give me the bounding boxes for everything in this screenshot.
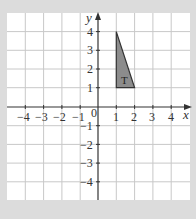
x-tick-label: −4 [17,110,30,124]
y-tick-label: 3 [87,43,93,57]
y-tick-label: −4 [80,175,93,189]
triangle-label: T [121,74,128,86]
x-tick-label: −2 [53,110,66,124]
y-axis-label: y [84,10,92,25]
x-axis-label: x [182,107,189,122]
coordinate-grid: T x y 0 −4 −3 −2 −1 1 2 3 4 4 3 2 1 −1 [0,0,196,219]
y-tick-label: −1 [80,119,93,133]
x-tick-label: 3 [149,110,155,124]
origin-label: 0 [91,106,97,120]
y-tick-label: −3 [80,156,93,170]
x-tick-label: 2 [131,110,137,124]
y-tick-label: 1 [87,81,93,95]
y-tick-label: 4 [87,25,93,39]
y-tick-label: 2 [87,62,93,76]
y-tick-label: −2 [80,138,93,152]
x-tick-label: −3 [35,110,48,124]
x-tick-label: 4 [168,110,174,124]
x-tick-label: 1 [113,110,119,124]
